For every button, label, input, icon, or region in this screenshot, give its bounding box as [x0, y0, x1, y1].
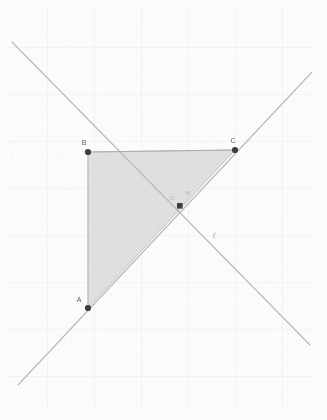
geometry-canvas: A B C D M ℓ [0, 0, 327, 420]
paper-grain-overlay [0, 0, 327, 420]
geometry-figure: A B C D M ℓ [0, 0, 327, 420]
